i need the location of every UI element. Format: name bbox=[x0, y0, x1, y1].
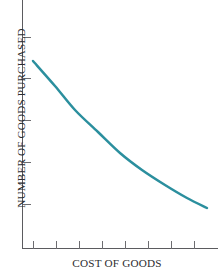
demand-curve-figure: NUMBER OF GOODS PURCHASED COST OF GOODS bbox=[0, 0, 218, 273]
y-axis-label-wrap: NUMBER OF GOODS PURCHASED bbox=[14, 228, 30, 229]
x-axis-ticks bbox=[34, 241, 195, 249]
chart-canvas bbox=[0, 0, 218, 273]
y-axis-ticks bbox=[23, 38, 31, 205]
demand-curve-line bbox=[33, 61, 207, 208]
x-axis-label: COST OF GOODS bbox=[22, 257, 212, 269]
